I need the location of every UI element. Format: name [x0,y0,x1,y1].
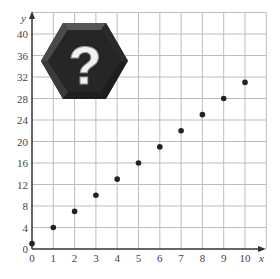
data-point [178,128,184,134]
data-point [136,160,142,166]
x-tick-label: 3 [93,252,99,264]
y-tick-label: 32 [17,71,28,83]
x-tick-label: 7 [178,252,184,264]
x-axis-label: x [258,252,264,264]
y-tick-label: 16 [17,157,29,169]
y-tick-label: 12 [17,179,28,191]
y-tick-label: 20 [17,136,29,148]
y-tick-label: 24 [17,114,29,126]
data-point [157,144,163,150]
x-tick-label: 8 [200,252,206,264]
y-tick-label: 8 [23,200,29,212]
x-tick-label: 9 [221,252,227,264]
data-point [114,176,120,182]
x-tick-label: 2 [72,252,78,264]
x-tick-label: 0 [29,252,35,264]
scatter-chart: 0123456789100481216202428323640 y x ? [0,0,280,279]
x-tick-label: 6 [157,252,163,264]
data-point [72,209,78,215]
y-tick-label: 40 [17,28,29,40]
y-tick-label: 4 [23,222,29,234]
y-tick-label: 36 [17,50,29,62]
y-tick-label: 28 [17,93,29,105]
y-tick-label: 0 [23,243,29,255]
y-axis-label: y [20,12,26,24]
data-point [242,80,248,86]
data-point [221,96,227,102]
data-point [51,225,57,231]
x-tick-label: 5 [136,252,142,264]
data-point [200,112,206,118]
x-tick-label: 10 [240,252,252,264]
x-tick-label: 1 [51,252,57,264]
data-point [93,192,99,198]
x-tick-label: 4 [114,252,120,264]
data-point [29,241,35,247]
question-mark: ? [69,35,102,95]
